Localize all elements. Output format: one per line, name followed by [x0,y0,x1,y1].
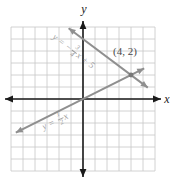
intersection-point-label: (4, 2) [113,46,137,57]
x-axis-label: x [164,93,169,105]
coordinate-plane [0,0,176,185]
graph-figure: y = −34x + 5 y = 12x (4, 2) x y [0,0,176,185]
y-axis-label: y [81,3,86,15]
